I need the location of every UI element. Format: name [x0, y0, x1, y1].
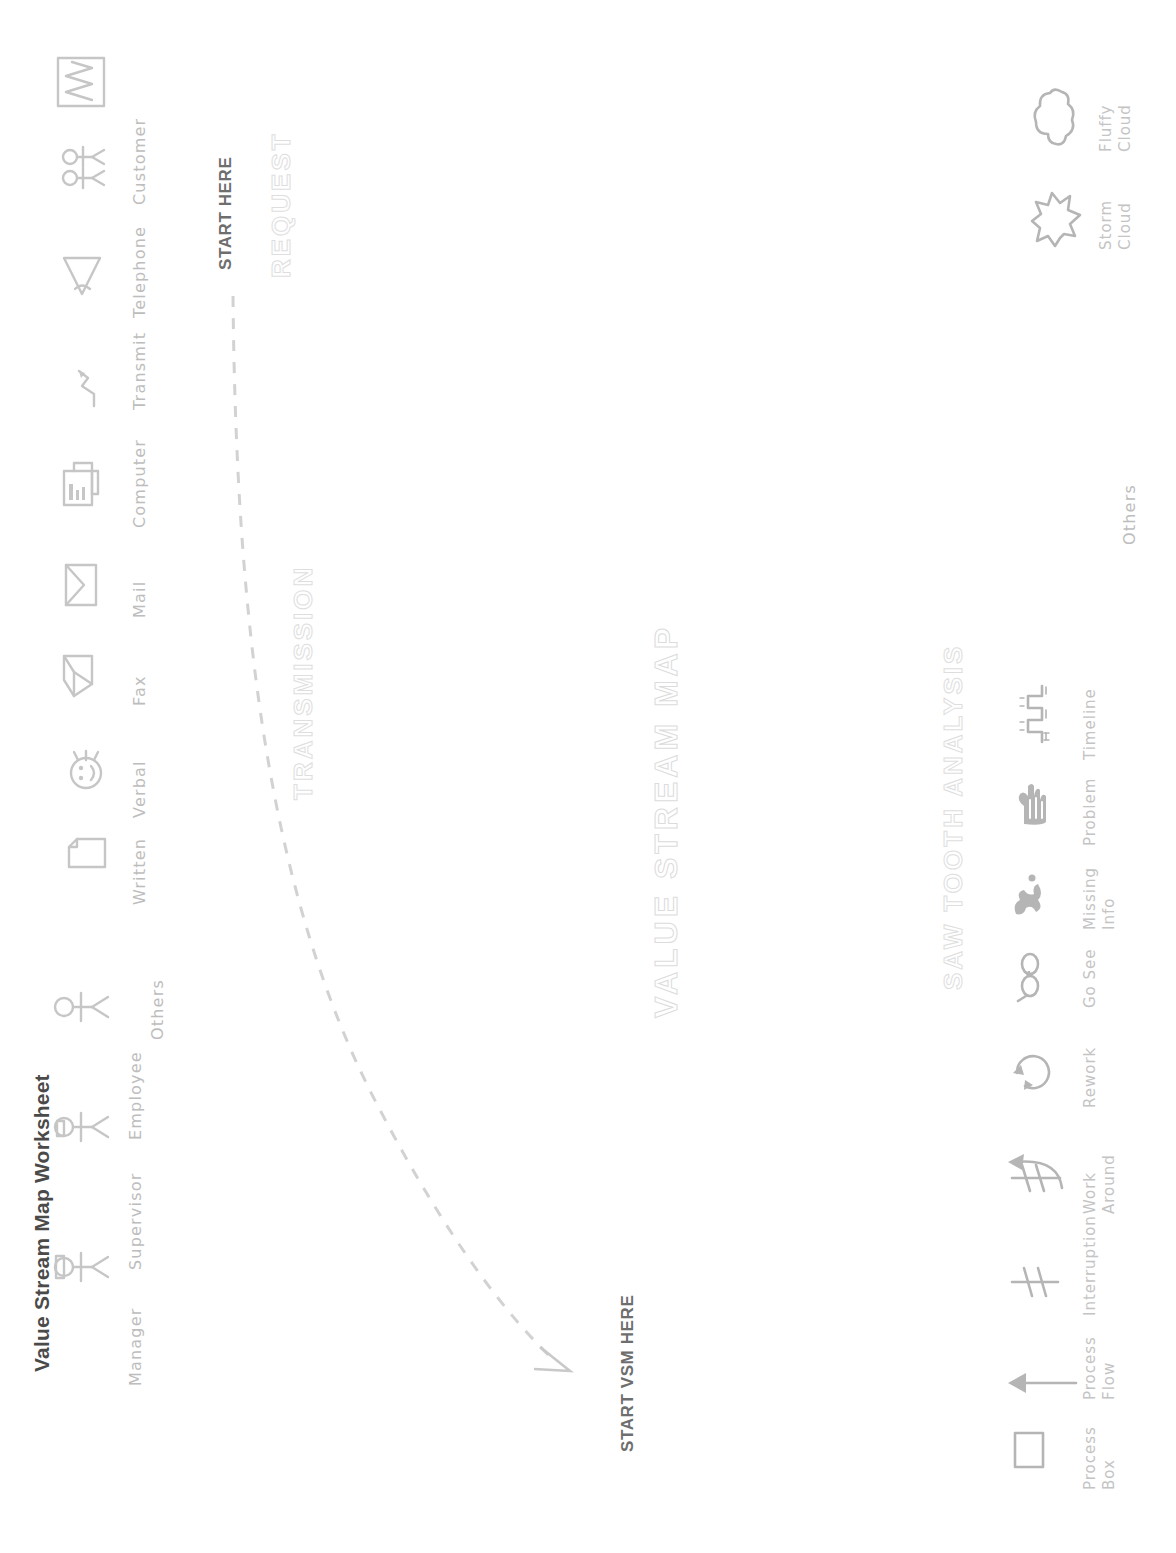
saw-tooth-label-process-box-line2: Box	[1101, 1459, 1118, 1490]
saw-tooth-label-work-around-line1: Work	[1082, 1172, 1099, 1214]
lightning-transmit-icon	[74, 368, 100, 408]
saw-tooth-label-interruption: Interruption	[1082, 1215, 1099, 1316]
customer-group-icon	[58, 134, 118, 190]
envelope-icon	[62, 562, 100, 608]
page-title: Value Stream Map Worksheet	[30, 1074, 54, 1372]
saw-tooth-label-work-around-line2: Around	[1101, 1154, 1118, 1214]
people-legend-label-supervisor: Supervisor	[126, 1173, 145, 1271]
value-stream-dashed-flow-curve	[0, 0, 1176, 1553]
transmission-section-heading: TRANSMISSION	[288, 565, 319, 800]
saw-tooth-label-missing-info-line2: Info	[1101, 898, 1118, 930]
process-box-icon	[1012, 1430, 1046, 1470]
missing-info-icon	[1010, 872, 1052, 920]
value-stream-map-heading: VALUE STREAM MAP	[648, 624, 685, 1018]
saw-tooth-analysis-heading: SAW TOOTH ANALYSIS	[938, 644, 969, 990]
saw-tooth-label-process-flow-line1: Process	[1082, 1336, 1099, 1400]
transmission-others-label: Others	[148, 979, 167, 1040]
saw-tooth-label-rework: Rework	[1082, 1047, 1099, 1108]
saw-tooth-label-timeline: Timeline	[1082, 688, 1099, 760]
transmission-label-mail: Mail	[130, 581, 149, 618]
work-around-icon	[1004, 1152, 1066, 1198]
people-legend-label-employee: Employee	[126, 1051, 145, 1140]
transmission-label-telephone: Telephone	[130, 226, 149, 318]
transmission-label-written: Written	[130, 838, 149, 905]
transmission-label-computer: Computer	[130, 439, 149, 528]
interruption-icon	[1008, 1264, 1062, 1300]
clouds-legend-label-fluffy-line2: Cloud	[1117, 104, 1134, 152]
transmission-label-customer: Customer	[130, 118, 149, 205]
start-vsm-here-callout: START VSM HERE	[618, 1295, 638, 1452]
saw-tooth-label-process-flow-line2: Flow	[1101, 1362, 1118, 1400]
saw-tooth-others-label: Others	[1120, 484, 1139, 545]
saw-tooth-label-problem: Problem	[1082, 778, 1099, 846]
supervisor-stick-figure-icon	[52, 1104, 110, 1150]
saw-tooth-label-process-box-line1: Process	[1082, 1426, 1099, 1490]
start-here-callout: START HERE	[216, 157, 236, 270]
clouds-legend-label-storm-line1: Storm	[1098, 200, 1115, 250]
saw-tooth-label-go-see: Go See	[1082, 948, 1099, 1008]
manager-stick-figure-icon	[52, 1244, 110, 1290]
transmission-label-verbal: Verbal	[130, 760, 149, 818]
saw-tooth-label-missing-info-line1: Missing	[1082, 867, 1099, 930]
eyeglasses-go-see-icon	[1014, 950, 1044, 1002]
speaking-face-icon	[64, 750, 108, 790]
transmission-label-transmit: Transmit	[130, 332, 149, 410]
document-page-icon	[66, 836, 108, 870]
telephone-handset-icon	[60, 252, 104, 300]
clouds-legend-label-storm-line2: Cloud	[1117, 202, 1134, 250]
computer-monitor-icon	[60, 460, 102, 508]
process-flow-arrow-icon	[1006, 1366, 1080, 1400]
clouds-legend-label-fluffy-line1: Fluffy	[1098, 105, 1115, 152]
employee-stick-figure-icon	[52, 984, 110, 1030]
storm-cloud-icon	[1030, 190, 1086, 248]
fluffy-cloud-icon	[1030, 86, 1080, 148]
pointing-hand-problem-icon	[1010, 780, 1052, 830]
fax-machine-icon	[60, 652, 102, 700]
saw-tooth-timeline-icon	[1018, 684, 1052, 744]
request-callout: REQUEST	[266, 131, 297, 278]
customer-demand-zigzag-icon	[52, 54, 110, 110]
rework-cycle-icon	[1012, 1052, 1054, 1094]
transmission-label-fax: Fax	[130, 675, 149, 706]
people-legend-label-manager: Manager	[126, 1307, 145, 1386]
